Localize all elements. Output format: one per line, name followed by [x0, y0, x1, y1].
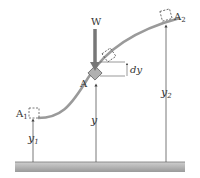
block-end-dashed: [160, 9, 172, 21]
y-label: y: [90, 114, 98, 127]
A2-label: A2: [173, 11, 186, 24]
point-A-label: A: [79, 78, 88, 89]
y1-label: y1: [27, 132, 39, 146]
curve-path: [38, 18, 180, 118]
block-start-dashed: [29, 108, 39, 118]
dy-label: dy: [130, 64, 142, 75]
weight-label: W: [91, 16, 102, 27]
work-of-weight-diagram: W A A1 A2 dy y y1 y2: [0, 0, 200, 178]
A1-label: A1: [15, 108, 28, 121]
y2-label: y2: [160, 86, 172, 100]
ground: [15, 162, 185, 172]
